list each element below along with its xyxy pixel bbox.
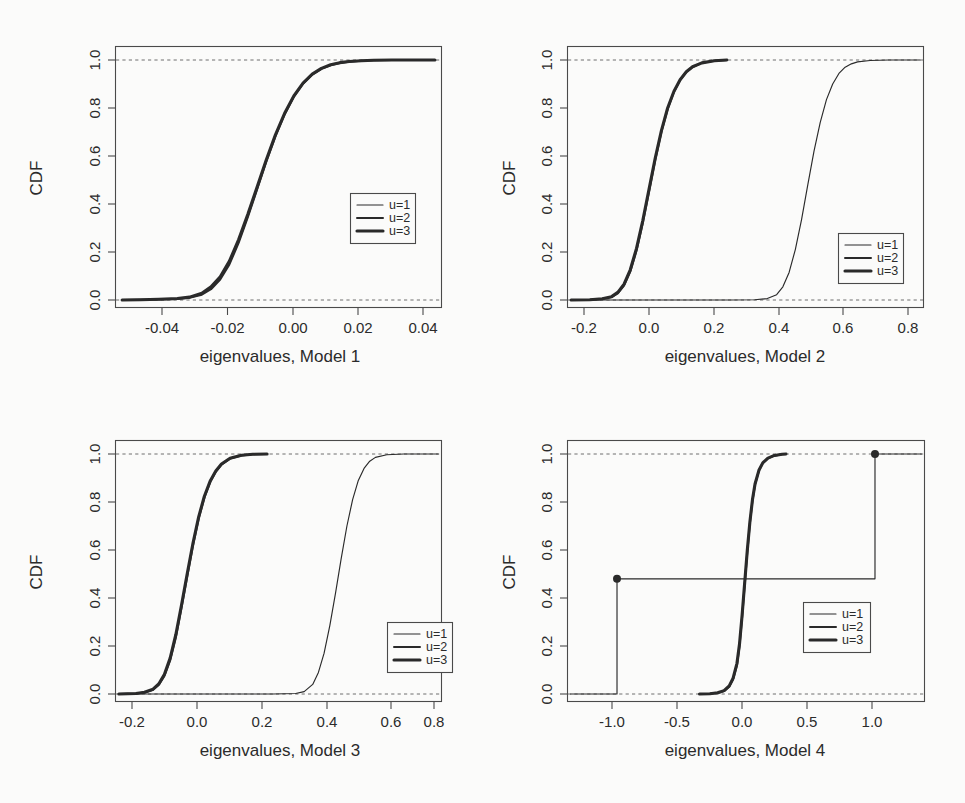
x-tick-label: 0.0 [187, 713, 208, 730]
figure-cdf-eigenvalues-grid: 0.0 0.2 0.4 0.6 0.8 1.0 -0.04 -0.02 0.00… [0, 0, 965, 803]
x-tick-label: 0.4 [769, 319, 790, 336]
y-tick-label: 0.4 [538, 194, 555, 215]
y-axis-ticks-panel2 [560, 60, 568, 300]
y-tick-label: 1.0 [538, 444, 555, 465]
y-tick-label: 0.4 [538, 588, 555, 609]
series-line-u2 [571, 60, 727, 300]
x-tick-label: 1.0 [862, 713, 883, 730]
y-tick-label: 0.6 [538, 540, 555, 561]
legend-panel1: u=1 u=2 u=3 [351, 194, 416, 244]
legend-label-u1: u=1 [389, 198, 410, 212]
data-point-marker [613, 575, 621, 583]
series-line-u3 [122, 60, 435, 300]
x-tick-label: 0.0 [732, 713, 753, 730]
y-tick-label: 1.0 [86, 444, 103, 465]
y-tick-label: 0.8 [538, 492, 555, 513]
y-tick-label: 0.2 [538, 242, 555, 263]
y-tick-label: 0.0 [538, 290, 555, 311]
legend-panel2: u=1 u=2 u=3 [839, 234, 904, 284]
x-tick-label: 0.4 [317, 713, 338, 730]
y-tick-label: 0.4 [86, 588, 103, 609]
legend-label-u3: u=3 [389, 224, 410, 238]
series-line-u3 [571, 60, 727, 300]
x-axis-label-panel3: eigenvalues, Model 3 [200, 741, 361, 760]
y-tick-label: 1.0 [538, 50, 555, 71]
legend-label-u2: u=2 [842, 620, 863, 634]
x-axis-ticks-panel3 [132, 702, 434, 710]
x-tick-label: 0.5 [797, 713, 818, 730]
y-tick-label: 1.0 [86, 50, 103, 71]
legend-label-u3: u=3 [426, 653, 447, 667]
legend-label-u3: u=3 [877, 264, 898, 278]
y-axis-label-panel4: CDF [500, 555, 519, 590]
y-axis-ticks-panel1 [108, 60, 116, 300]
x-tick-label: 0.2 [704, 319, 725, 336]
y-tick-label: 0.4 [86, 194, 103, 215]
legend-label-u2: u=2 [877, 251, 898, 265]
series-line-u2 [122, 60, 435, 300]
y-tick-label: 0.8 [538, 98, 555, 119]
x-axis-ticks-panel2 [584, 308, 908, 316]
y-tick-label: 0.2 [86, 242, 103, 263]
x-axis-ticks-panel4 [612, 702, 872, 710]
x-tick-label: -0.04 [145, 319, 179, 336]
x-tick-label: 0.8 [898, 319, 919, 336]
series-line-u3 [119, 454, 267, 694]
legend-label-u2: u=2 [389, 211, 410, 225]
legend-label-u3: u=3 [842, 633, 863, 647]
panel-model-4: 0.0 0.2 0.4 0.6 0.8 1.0 -1.0 -0.5 0.0 0.… [483, 400, 965, 803]
x-tick-label: -0.2 [571, 319, 597, 336]
panel-model-2: 0.0 0.2 0.4 0.6 0.8 1.0 -0.2 0.0 0.2 0.4 [483, 0, 965, 400]
y-tick-label: 0.6 [86, 146, 103, 167]
y-axis-label-panel2: CDF [500, 161, 519, 196]
y-axis-tick-labels-panel4: 0.0 0.2 0.4 0.6 0.8 1.0 [538, 444, 555, 705]
legend-label-u1: u=1 [877, 238, 898, 252]
y-axis-tick-labels-panel2: 0.0 0.2 0.4 0.6 0.8 1.0 [538, 50, 555, 311]
legend-label-u1: u=1 [842, 607, 863, 621]
y-tick-label: 0.0 [86, 290, 103, 311]
series-line-u2 [119, 454, 267, 694]
series-group-panel1 [122, 60, 435, 300]
x-tick-label: 0.6 [833, 319, 854, 336]
x-axis-tick-labels-panel3: -0.2 0.0 0.2 0.4 0.6 0.8 [119, 713, 444, 730]
x-axis-label-panel4: eigenvalues, Model 4 [665, 741, 826, 760]
x-tick-label: 0.8 [424, 713, 445, 730]
x-tick-label: 0.02 [343, 319, 372, 336]
y-tick-label: 0.8 [86, 98, 103, 119]
x-axis-ticks-panel1 [162, 308, 423, 316]
series-line-u3 [700, 454, 786, 694]
y-axis-tick-labels-panel3: 0.0 0.2 0.4 0.6 0.8 1.0 [86, 444, 103, 705]
x-tick-label: 0.00 [278, 319, 307, 336]
x-tick-label: -0.5 [664, 713, 690, 730]
series-line-u2 [700, 454, 786, 694]
panel-model-1: 0.0 0.2 0.4 0.6 0.8 1.0 -0.04 -0.02 0.00… [0, 0, 483, 400]
y-axis-ticks-panel3 [108, 454, 116, 694]
plot-frame-1 [116, 47, 442, 308]
legend-label-u1: u=1 [426, 627, 447, 641]
y-axis-label-panel3: CDF [27, 555, 46, 590]
y-axis-tick-labels-panel1: 0.0 0.2 0.4 0.6 0.8 1.0 [86, 50, 103, 311]
series-group-panel4 [571, 454, 922, 694]
y-tick-label: 0.8 [86, 492, 103, 513]
y-tick-label: 0.0 [86, 684, 103, 705]
data-point-marker [871, 450, 879, 458]
legend-panel3: u=1 u=2 u=3 [388, 623, 453, 673]
x-axis-tick-labels-panel4: -1.0 -0.5 0.0 0.5 1.0 [599, 713, 882, 730]
x-tick-label: 0.2 [252, 713, 273, 730]
x-axis-tick-labels-panel1: -0.04 -0.02 0.00 0.02 0.04 [145, 319, 438, 336]
y-tick-label: 0.2 [86, 636, 103, 657]
y-tick-label: 0.6 [538, 146, 555, 167]
y-axis-ticks-panel4 [560, 454, 568, 694]
legend-panel4: u=1 u=2 u=3 [804, 603, 871, 653]
y-tick-label: 0.2 [538, 636, 555, 657]
y-tick-label: 0.0 [538, 684, 555, 705]
y-tick-label: 0.6 [86, 540, 103, 561]
x-axis-label-panel2: eigenvalues, Model 2 [665, 347, 826, 366]
x-tick-label: 0.6 [381, 713, 402, 730]
x-tick-label: -1.0 [599, 713, 625, 730]
x-tick-label: -0.2 [119, 713, 145, 730]
x-axis-tick-labels-panel2: -0.2 0.0 0.2 0.4 0.6 0.8 [571, 319, 918, 336]
x-axis-label-panel1: eigenvalues, Model 1 [200, 347, 361, 366]
x-tick-label: 0.04 [408, 319, 437, 336]
series-line-u1 [122, 60, 435, 300]
